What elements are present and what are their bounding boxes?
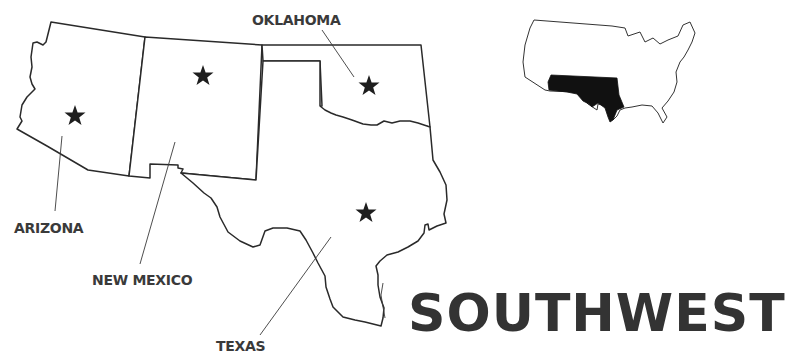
label-new-mexico: NEW MEXICO [92,272,192,288]
label-oklahoma: OKLAHOMA [252,12,341,28]
us-locator-inset-map [523,20,695,123]
texas-leader-line [260,237,331,335]
state-new-mexico [129,37,262,180]
state-arizona [17,22,145,176]
label-arizona: ARIZONA [14,220,83,236]
southwest-region-highlight [548,75,624,122]
region-title: SOUTHWEST [408,287,786,339]
label-texas: TEXAS [216,338,265,354]
